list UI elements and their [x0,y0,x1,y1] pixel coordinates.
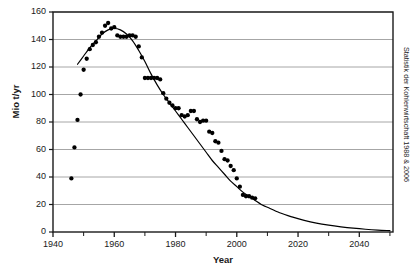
chart-figure: 160140120100806040200 194019601980200020… [0,0,416,278]
fitted-curve-line [78,29,390,231]
source-attribution-note: Statistik der Kohlenwirtschaft 1988 & 20… [402,33,411,197]
x-axis-tick-2040: 2040 [337,239,381,249]
y-axis-tick-60: 60 [12,144,46,154]
x-axis-tick-2020: 2020 [276,239,320,249]
data-point-markers [69,21,257,201]
grid-lines [53,12,393,205]
axis-ticks [49,12,390,237]
y-axis-tick-40: 40 [12,171,46,181]
x-axis-tick-2000: 2000 [215,239,259,249]
y-axis-title: Mio t/yr [10,69,21,135]
y-axis-tick-140: 140 [12,34,46,44]
x-axis-tick-1960: 1960 [92,239,136,249]
x-axis-tick-1980: 1980 [154,239,198,249]
y-axis-tick-0: 0 [12,226,46,236]
y-axis-tick-160: 160 [12,6,46,16]
x-axis-title: Year [53,254,393,265]
x-axis-tick-1940: 1940 [31,239,75,249]
chart-plot-area [0,0,416,278]
y-axis-tick-20: 20 [12,199,46,209]
